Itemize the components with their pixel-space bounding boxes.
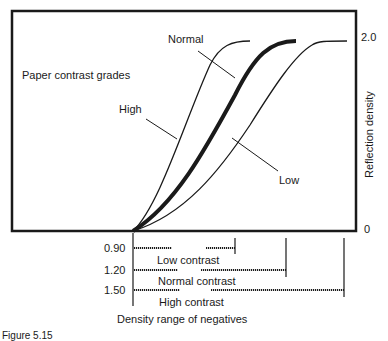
range-value-090: 0.90 <box>104 243 125 254</box>
label-high: High <box>119 104 142 115</box>
leader-low <box>232 138 278 171</box>
range-label-high: High contrast <box>159 297 224 308</box>
label-low: Low <box>279 175 299 186</box>
range-label-low: Low contrast <box>157 255 219 266</box>
range-label-normal: Normal contrast <box>158 276 236 287</box>
label-normal: Normal <box>168 34 203 45</box>
figure-caption: Figure 5.15 <box>2 331 53 341</box>
x-axis-label: Density range of negatives <box>117 314 247 325</box>
leader-high <box>146 119 177 139</box>
range-value-150: 1.50 <box>104 285 125 296</box>
curve-normal <box>133 41 296 231</box>
curve-high <box>133 41 250 231</box>
range-value-120: 1.20 <box>104 265 125 276</box>
y-axis-label: Reflection density <box>364 91 375 178</box>
y-tick-max: 2.0 <box>361 32 376 43</box>
y-tick-min: 0 <box>364 224 370 235</box>
diagram-title: Paper contrast grades <box>22 70 130 81</box>
